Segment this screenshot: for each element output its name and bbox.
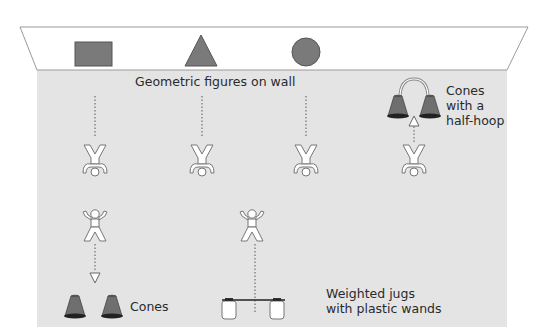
hoop-label-line3: half-hoop — [446, 114, 504, 128]
jug-icon — [222, 298, 236, 319]
wall-rectangle-shape — [75, 42, 112, 66]
cones-label: Cones — [130, 300, 169, 314]
wall-circle-shape — [292, 38, 320, 66]
diagram: Geometric figures on wall Cones with a h… — [0, 0, 541, 335]
jug-icon — [270, 298, 284, 319]
jugs-label-line1: Weighted jugs — [326, 287, 415, 301]
hoop-label-line2: with a — [446, 99, 484, 113]
wall-label: Geometric figures on wall — [135, 75, 295, 89]
hoop-label-line1: Cones — [446, 84, 485, 98]
jugs-label-line2: with plastic wands — [326, 302, 442, 316]
